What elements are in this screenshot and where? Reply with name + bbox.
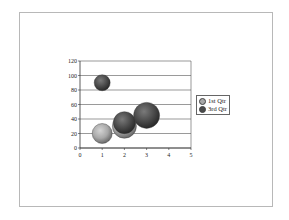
x-tick-label: 3 xyxy=(145,152,148,158)
bubble-3rd-qtr xyxy=(94,75,110,91)
axes: 020406080100120012345 xyxy=(68,58,193,158)
x-tick-label: 4 xyxy=(167,152,170,158)
legend-swatch-icon xyxy=(199,98,206,105)
y-tick-label: 20 xyxy=(71,131,77,137)
x-tick-label: 2 xyxy=(123,152,126,158)
bubble-3rd-qtr xyxy=(113,112,135,134)
y-tick-label: 0 xyxy=(74,145,77,151)
legend-label: 1st Qtr xyxy=(208,97,226,105)
bubble-1st-qtr xyxy=(92,124,112,144)
y-tick-label: 120 xyxy=(68,58,77,64)
legend-item-1st-qtr: 1st Qtr xyxy=(199,97,227,105)
x-tick-label: 0 xyxy=(79,152,82,158)
x-tick-label: 5 xyxy=(190,152,193,158)
bubbles xyxy=(92,75,159,144)
y-tick-label: 40 xyxy=(71,116,77,122)
y-tick-label: 100 xyxy=(68,73,77,79)
y-tick-label: 60 xyxy=(71,102,77,108)
y-tick-label: 80 xyxy=(71,87,77,93)
bubble-chart: 020406080100120012345 xyxy=(0,0,289,220)
legend: 1st Qtr 3rd Qtr xyxy=(196,95,230,115)
x-tick-label: 1 xyxy=(101,152,104,158)
legend-label: 3rd Qtr xyxy=(208,105,227,113)
legend-swatch-icon xyxy=(199,106,206,113)
legend-item-3rd-qtr: 3rd Qtr xyxy=(199,105,227,113)
bubble-3rd-qtr xyxy=(134,102,160,128)
